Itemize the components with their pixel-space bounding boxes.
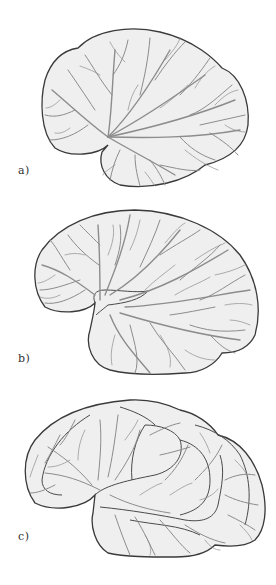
brain-illustration-b xyxy=(0,195,276,385)
panel-label-c: c) xyxy=(18,530,29,543)
panel-label-b: b) xyxy=(18,352,30,365)
panel-a: a) xyxy=(0,0,276,195)
panel-b: b) xyxy=(0,195,276,385)
brain-illustration-a xyxy=(0,0,276,195)
panel-label-a: a) xyxy=(18,164,30,177)
brain-illustration-c xyxy=(0,385,276,585)
panel-c: c) xyxy=(0,385,276,585)
